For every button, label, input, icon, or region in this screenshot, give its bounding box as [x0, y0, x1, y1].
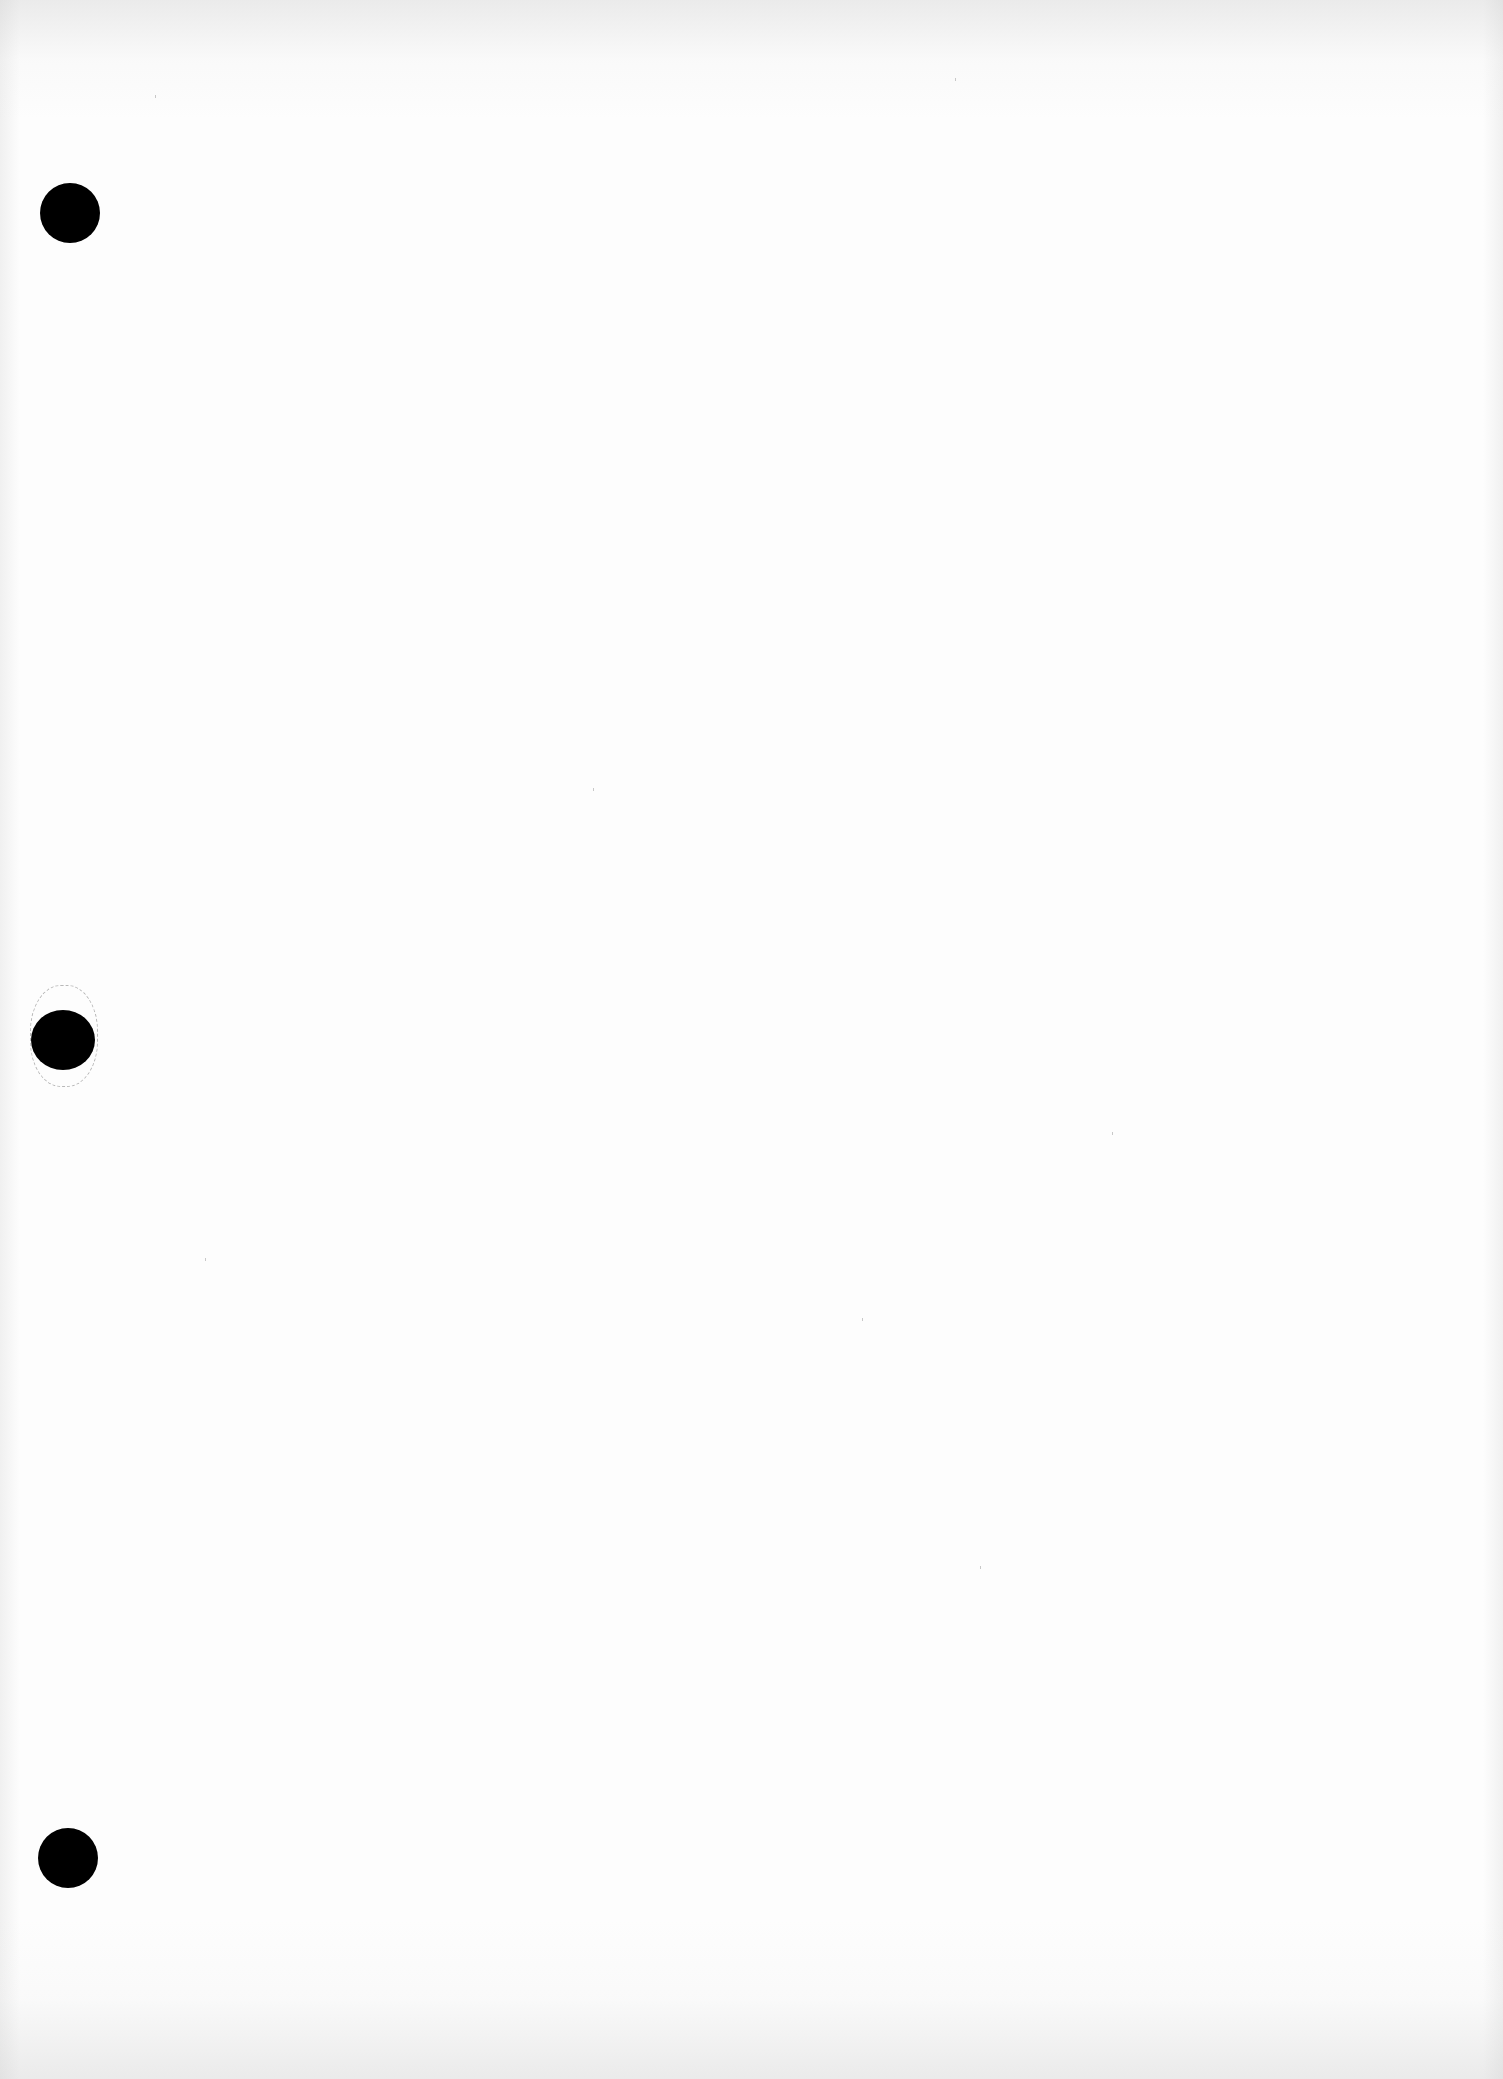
- scan-speck: [593, 788, 594, 791]
- scan-speck: [1112, 1132, 1113, 1135]
- punch-hole-bottom: [38, 1828, 98, 1888]
- scan-speck: [862, 1318, 863, 1321]
- scan-speck: [205, 1258, 206, 1261]
- scan-speck: [155, 95, 156, 98]
- punch-hole-top: [40, 183, 100, 243]
- scan-speck: [955, 78, 956, 81]
- punch-hole-middle: [31, 1010, 95, 1070]
- blank-paper-page: [0, 0, 1503, 2079]
- scan-speck: [980, 1566, 981, 1569]
